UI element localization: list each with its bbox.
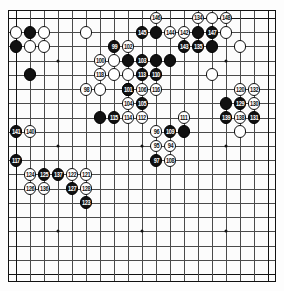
move-number: 132 bbox=[250, 86, 258, 93]
move-stone: 96 bbox=[150, 125, 163, 138]
move-stone: 100 bbox=[94, 54, 107, 67]
white-stone bbox=[220, 26, 233, 39]
move-stone: 117 bbox=[10, 154, 23, 167]
black-stone bbox=[178, 125, 191, 138]
move-number: 130 bbox=[250, 100, 258, 107]
move-stone: 135 bbox=[192, 40, 205, 53]
grid-line-vertical bbox=[254, 11, 255, 281]
move-number: 126 bbox=[26, 185, 34, 192]
move-number: 142 bbox=[180, 29, 188, 36]
hoshi-point bbox=[57, 145, 60, 148]
move-stone: 94 bbox=[164, 140, 177, 153]
move-stone: 127 bbox=[66, 182, 79, 195]
hoshi-point bbox=[225, 145, 228, 148]
move-number: 147 bbox=[208, 29, 216, 36]
move-number: 117 bbox=[12, 157, 20, 164]
move-number: 125 bbox=[40, 171, 48, 178]
move-stone: 114 bbox=[122, 111, 135, 124]
move-number: 113 bbox=[138, 71, 146, 78]
white-stone bbox=[206, 68, 219, 81]
move-number: 102 bbox=[124, 43, 132, 50]
move-number: 97 bbox=[153, 157, 158, 164]
move-number: 115 bbox=[110, 114, 118, 121]
go-board[interactable]: 1461341481451441421479910214313510010311… bbox=[8, 10, 276, 282]
white-stone bbox=[206, 12, 219, 25]
go-diagram: 1461341481451441421479910214313510010311… bbox=[0, 0, 284, 291]
move-number: 136 bbox=[40, 185, 48, 192]
white-stone bbox=[122, 68, 135, 81]
move-stone: 134 bbox=[192, 12, 205, 25]
move-number: 121 bbox=[82, 171, 90, 178]
move-number: 108 bbox=[166, 157, 174, 164]
move-stone: 120 bbox=[234, 83, 247, 96]
move-number: 141 bbox=[12, 128, 20, 135]
black-stone bbox=[94, 111, 107, 124]
move-stone: 137 bbox=[52, 168, 65, 181]
move-number: 140 bbox=[26, 128, 34, 135]
move-stone: 147 bbox=[206, 26, 219, 39]
move-number: 148 bbox=[222, 14, 230, 21]
black-stone bbox=[24, 26, 37, 39]
move-number: 96 bbox=[153, 128, 158, 135]
move-stone: 98 bbox=[80, 83, 93, 96]
move-number: 144 bbox=[166, 29, 174, 36]
move-stone: 144 bbox=[164, 26, 177, 39]
move-stone: 109 bbox=[164, 125, 177, 138]
move-stone: 112 bbox=[136, 111, 149, 124]
move-stone: 145 bbox=[136, 26, 149, 39]
move-number: 145 bbox=[138, 29, 146, 36]
black-stone bbox=[122, 54, 135, 67]
hoshi-point bbox=[225, 59, 228, 62]
move-number: 111 bbox=[180, 114, 188, 121]
move-stone: 110 bbox=[150, 68, 163, 81]
move-stone: 143 bbox=[178, 40, 191, 53]
move-number: 106 bbox=[138, 86, 146, 93]
move-number: 94 bbox=[167, 142, 172, 149]
move-number: 134 bbox=[194, 14, 202, 21]
white-stone bbox=[10, 26, 23, 39]
white-stone bbox=[38, 40, 51, 53]
black-stone bbox=[150, 26, 163, 39]
move-number: 105 bbox=[138, 100, 146, 107]
move-stone: 136 bbox=[38, 182, 51, 195]
move-stone: 142 bbox=[178, 26, 191, 39]
move-stone: 148 bbox=[220, 12, 233, 25]
move-number: 122 bbox=[68, 171, 76, 178]
move-stone: 103 bbox=[136, 54, 149, 67]
white-stone bbox=[80, 26, 93, 39]
move-number: 120 bbox=[236, 86, 244, 93]
move-stone: 101 bbox=[122, 83, 135, 96]
move-number: 137 bbox=[54, 171, 62, 178]
grid-line-vertical bbox=[86, 11, 87, 281]
move-number: 131 bbox=[250, 114, 258, 121]
white-stone bbox=[94, 83, 107, 96]
grid-line-vertical bbox=[268, 11, 269, 281]
move-number: 116 bbox=[152, 86, 160, 93]
move-number: 103 bbox=[138, 57, 146, 64]
move-stone: 139 bbox=[220, 111, 233, 124]
move-stone: 131 bbox=[248, 111, 261, 124]
white-stone bbox=[38, 26, 51, 39]
hoshi-point bbox=[57, 230, 60, 233]
move-stone: 99 bbox=[108, 40, 121, 53]
move-stone: 122 bbox=[66, 168, 79, 181]
move-stone: 118 bbox=[94, 68, 107, 81]
move-stone: 146 bbox=[150, 12, 163, 25]
move-stone: 105 bbox=[136, 97, 149, 110]
black-stone bbox=[164, 54, 177, 67]
move-number: 123 bbox=[82, 199, 90, 206]
hoshi-point bbox=[141, 145, 144, 148]
move-number: 104 bbox=[124, 100, 132, 107]
black-stone bbox=[150, 54, 163, 67]
move-number: 135 bbox=[194, 43, 202, 50]
move-number: 128 bbox=[82, 185, 90, 192]
move-stone: 125 bbox=[38, 168, 51, 181]
black-stone bbox=[206, 40, 219, 53]
move-number: 139 bbox=[222, 114, 230, 121]
move-stone: 121 bbox=[80, 168, 93, 181]
move-stone: 123 bbox=[80, 196, 93, 209]
move-stone: 108 bbox=[164, 154, 177, 167]
white-stone bbox=[234, 40, 247, 53]
white-stone bbox=[24, 40, 37, 53]
move-stone: 116 bbox=[150, 83, 163, 96]
